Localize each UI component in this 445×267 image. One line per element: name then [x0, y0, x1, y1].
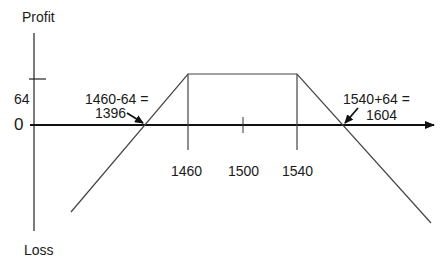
breakeven-left-formula: 1460-64 =	[85, 92, 148, 106]
x-tick-label-1460: 1460	[171, 164, 202, 178]
diagram-canvas	[0, 0, 445, 267]
breakeven-right-formula: 1540+64 =	[343, 92, 410, 106]
x-tick-label-1540: 1540	[282, 164, 313, 178]
breakeven-arrow-left	[127, 113, 143, 123]
y-tick-label-64: 64	[14, 92, 30, 106]
x-tick-label-1500: 1500	[228, 164, 259, 178]
profit-label: Profit	[22, 10, 55, 24]
loss-label: Loss	[24, 243, 54, 257]
breakeven-right-value: 1604	[366, 108, 397, 122]
zero-label: 0	[14, 116, 23, 133]
payoff-diagram: Profit Loss 0 64 1460 1500 1540 1460-64 …	[0, 0, 445, 267]
breakeven-left-value: 1396	[95, 106, 126, 120]
breakeven-arrow-right	[345, 108, 358, 123]
